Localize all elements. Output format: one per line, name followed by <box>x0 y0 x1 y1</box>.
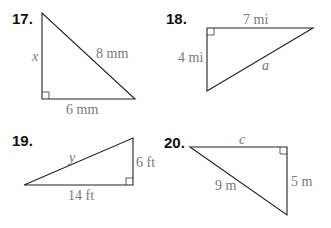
hypotenuse-label: a <box>262 58 269 73</box>
problem-19: 19. y 6 ft 14 ft <box>12 132 155 203</box>
right-angle-marker <box>207 28 214 35</box>
triangle <box>24 138 133 185</box>
side-label-bottom: 14 ft <box>68 188 94 203</box>
right-angle-marker <box>126 178 133 185</box>
problem-number: 19. <box>12 132 33 149</box>
problem-number: 20. <box>164 134 185 151</box>
side-label-right: 5 m <box>291 174 313 189</box>
right-angle-marker <box>42 92 49 99</box>
hypotenuse-label: y <box>67 150 76 165</box>
side-label-left: 4 mi <box>178 50 203 65</box>
problem-number: 17. <box>12 10 33 27</box>
problem-number: 18. <box>166 10 187 27</box>
right-angle-marker <box>280 147 287 154</box>
problem-18: 18. 7 mi 4 mi a <box>166 10 313 91</box>
side-label-bottom: 6 mm <box>66 102 98 117</box>
side-label-left: x <box>31 49 39 64</box>
triangle <box>190 147 287 215</box>
problem-20: 20. c 9 m 5 m <box>164 132 313 215</box>
hypotenuse-label: 8 mm <box>96 46 128 61</box>
side-label-top: 7 mi <box>243 12 268 27</box>
triangle <box>207 28 313 91</box>
problem-17: 17. x 8 mm 6 mm <box>12 10 135 117</box>
hypotenuse-label: 9 m <box>215 178 237 193</box>
side-label-right: 6 ft <box>136 155 155 170</box>
right-triangle-exercises: 17. x 8 mm 6 mm 18. 7 mi 4 mi a 19. y 6 … <box>0 0 331 228</box>
side-label-top: c <box>239 132 246 147</box>
